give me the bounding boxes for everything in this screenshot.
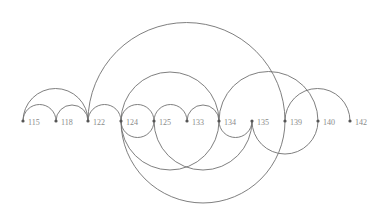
node-dot-icon	[21, 119, 24, 122]
arc-edge-124-139-below	[121, 121, 285, 203]
node-dot-icon	[185, 119, 188, 122]
node-142: 142	[348, 118, 367, 127]
arc-edge-134-140-above	[219, 72, 318, 122]
node-135: 135	[250, 118, 269, 127]
node-dot-icon	[316, 119, 319, 122]
node-label: 142	[355, 118, 367, 127]
arc-edge-124-134-above	[121, 72, 219, 121]
node-124: 124	[119, 118, 138, 127]
node-122: 122	[86, 118, 105, 127]
node-dot-icon	[217, 119, 220, 122]
node-label: 115	[28, 118, 40, 127]
arc-edges	[23, 23, 350, 203]
diagram-nodes: 115118122124125133134135139140142	[21, 118, 367, 127]
node-115: 115	[21, 118, 39, 127]
node-label: 133	[192, 118, 204, 127]
node-dot-icon	[119, 119, 122, 122]
node-134: 134	[217, 118, 236, 127]
node-label: 140	[323, 118, 335, 127]
node-dot-icon	[348, 119, 351, 122]
node-label: 122	[93, 118, 105, 127]
node-label: 125	[159, 118, 171, 127]
node-140: 140	[316, 118, 335, 127]
node-dot-icon	[54, 119, 57, 122]
node-dot-icon	[152, 119, 155, 122]
arc-edge-124-134-below	[121, 121, 219, 170]
node-label: 139	[290, 118, 302, 127]
node-139: 139	[283, 118, 302, 127]
node-label: 124	[126, 118, 138, 127]
node-125: 125	[152, 118, 171, 127]
arc-edge-125-135-below	[154, 121, 252, 170]
node-dot-icon	[250, 119, 253, 122]
arc-diagram: 115118122124125133134135139140142	[0, 0, 385, 221]
arc-edge-122-139-above	[88, 23, 285, 121]
node-label: 135	[257, 118, 269, 127]
node-dot-icon	[86, 119, 89, 122]
node-118: 118	[54, 118, 72, 127]
node-dot-icon	[283, 119, 286, 122]
node-label: 118	[61, 118, 73, 127]
node-133: 133	[185, 118, 204, 127]
node-label: 134	[224, 118, 236, 127]
